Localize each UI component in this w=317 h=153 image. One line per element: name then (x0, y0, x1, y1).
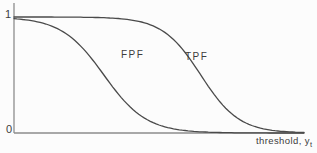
x-axis-label-subscript: t (310, 140, 312, 149)
plot-canvas (0, 0, 317, 153)
fpf-curve-label: FPF (121, 50, 144, 60)
tpf-curve-label: TPF (185, 52, 208, 62)
x-axis-label-text: threshold, y (256, 135, 310, 146)
x-axis-label: threshold, yt (256, 136, 312, 148)
tpf-curve (14, 17, 304, 133)
roc-threshold-figure: 1 0 FPF TPF threshold, yt (0, 0, 317, 153)
y-tick-1: 1 (5, 9, 11, 20)
fpf-curve (14, 19, 304, 133)
y-tick-0: 0 (6, 124, 12, 135)
